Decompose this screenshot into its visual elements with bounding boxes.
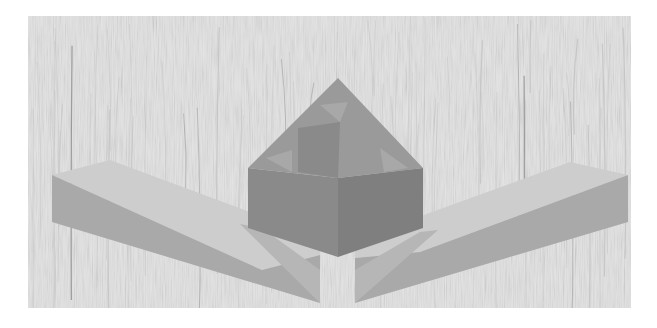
- corner-block-tenon: [298, 122, 340, 178]
- joint-illustration: [0, 0, 657, 328]
